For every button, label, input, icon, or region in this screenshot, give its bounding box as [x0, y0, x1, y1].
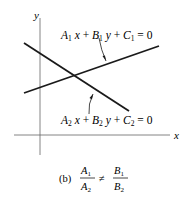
x-axis-label: x	[173, 129, 179, 141]
caption: (b) A1 A2 ≠ B1 B2	[59, 165, 128, 194]
fraction-right-numerator: B1	[114, 165, 124, 178]
fraction-right-denominator: B2	[114, 181, 124, 194]
not-equal-sign: ≠	[99, 173, 105, 184]
fraction-left-numerator: A1	[80, 165, 91, 178]
arrowhead-2	[90, 94, 94, 100]
y-axis-label: y	[33, 9, 39, 21]
equation-line-2: A2 x + B2 y + C2 = 0	[60, 114, 153, 128]
equation-line-1: A1 x + B1 y + C1 = 0	[60, 29, 153, 43]
caption-tag: (b)	[59, 173, 72, 185]
fraction-left-denominator: A2	[80, 181, 91, 194]
intersecting-lines-diagram: x y A1 x + B1 y + C1 = 0 A2 x + B2 y + C…	[0, 0, 189, 200]
arrowhead-1	[103, 56, 107, 62]
